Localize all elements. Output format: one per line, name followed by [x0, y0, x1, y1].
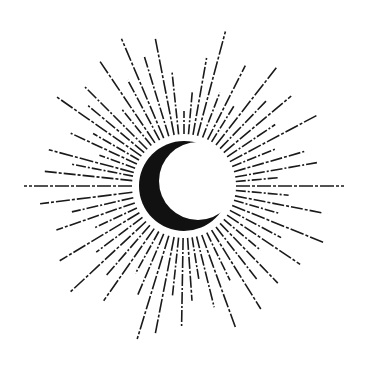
- crescent-sunburst-illustration: [0, 0, 371, 371]
- crescent-moon-icon: [139, 141, 229, 231]
